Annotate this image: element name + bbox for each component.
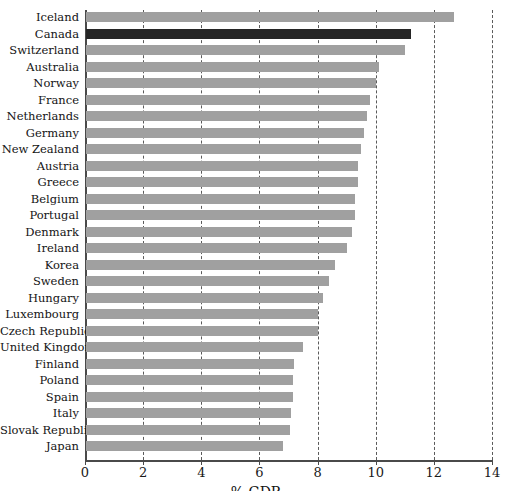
category-label-hungary: Hungary [0,292,79,304]
category-label-japan: Japan [0,440,79,452]
category-label-spain: Spain [0,391,79,403]
bar-row: Switzerland [0,44,511,62]
category-label-greece: Greece [0,176,79,188]
category-label-italy: Italy [0,407,79,419]
bar-netherlands [86,111,367,121]
category-label-austria: Austria [0,160,79,172]
bar-row: Iceland [0,11,511,29]
x-tick-label-2: 2 [123,465,163,480]
bar-austria [86,161,358,171]
bar-row: Luxembourg [0,308,511,326]
bar-belgium [86,194,355,204]
bar-row: Japan [0,440,511,458]
category-label-poland: Poland [0,374,79,386]
category-label-canada: Canada [0,28,79,40]
category-label-netherlands: Netherlands [0,110,79,122]
category-label-france: France [0,94,79,106]
bar-new-zealand [86,144,361,154]
bar-spain [86,392,293,402]
category-label-finland: Finland [0,358,79,370]
bar-czech-republic [86,326,318,336]
category-label-portugal: Portugal [0,209,79,221]
x-tick-label-14: 14 [472,465,511,480]
category-label-belgium: Belgium [0,193,79,205]
bar-poland [86,375,293,385]
bar-switzerland [86,45,405,55]
category-label-germany: Germany [0,127,79,139]
bar-australia [86,62,379,72]
x-axis-title: % GDP [0,484,511,491]
category-label-slovak-republic: Slovak Republic [0,424,79,436]
bar-germany [86,128,364,138]
bar-row: Italy [0,407,511,425]
category-label-new-zealand: New Zealand [0,143,79,155]
category-label-luxembourg: Luxembourg [0,308,79,320]
bar-ireland [86,243,347,253]
bar-denmark [86,227,352,237]
x-tick-label-0: 0 [65,465,105,480]
x-tick-label-12: 12 [414,465,454,480]
category-label-united-kingdom: United Kingdom [0,341,79,353]
bar-luxembourg [86,309,318,319]
bar-row: Ireland [0,242,511,260]
bar-row: United Kingdom [0,341,511,359]
bar-finland [86,359,294,369]
category-label-norway: Norway [0,77,79,89]
bar-united-kingdom [86,342,303,352]
category-label-australia: Australia [0,61,79,73]
category-label-czech-republic: Czech Republic [0,325,79,337]
category-label-sweden: Sweden [0,275,79,287]
bar-france [86,95,370,105]
bar-row: Norway [0,77,511,95]
bar-row: Sweden [0,275,511,293]
bar-korea [86,260,335,270]
category-label-denmark: Denmark [0,226,79,238]
bar-greece [86,177,358,187]
category-label-switzerland: Switzerland [0,44,79,56]
bar-canada [86,29,411,39]
bar-row: Poland [0,374,511,392]
bar-row: Netherlands [0,110,511,128]
bar-japan [86,441,283,451]
bar-norway [86,78,376,88]
bar-sweden [86,276,329,286]
x-axis-line [85,460,493,462]
category-label-korea: Korea [0,259,79,271]
bar-iceland [86,12,454,22]
bar-row: Greece [0,176,511,194]
category-label-ireland: Ireland [0,242,79,254]
bar-portugal [86,210,355,220]
category-label-iceland: Iceland [0,11,79,23]
bar-row: Portugal [0,209,511,227]
x-tick-label-4: 4 [181,465,221,480]
bar-chart: 02468101214 IcelandCanadaSwitzerlandAust… [0,0,511,491]
bar-hungary [86,293,323,303]
x-tick-label-6: 6 [239,465,279,480]
x-tick-label-8: 8 [298,465,338,480]
bar-slovak-republic [86,425,290,435]
bar-row: New Zealand [0,143,511,161]
bar-italy [86,408,291,418]
x-tick-label-10: 10 [356,465,396,480]
